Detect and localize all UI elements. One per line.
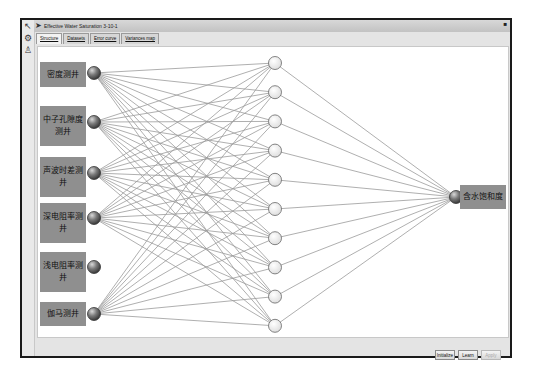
connection-line (275, 180, 456, 197)
connection-line (94, 73, 275, 121)
network-canvas: 密度测井 中子孔隙度测井 声波时差测井 深电阻率测井 浅电阻率测井 伽马测井 含… (37, 46, 509, 338)
connection-line (275, 151, 456, 197)
connection-line (275, 197, 456, 297)
connection-line (94, 297, 275, 314)
hidden-node[interactable] (269, 232, 282, 245)
connection-line (94, 218, 275, 267)
tab-structure[interactable]: Structure (36, 33, 62, 44)
tab-error-curve[interactable]: Error curve (90, 33, 120, 44)
apply-button[interactable]: Apply (481, 350, 501, 360)
input-node[interactable] (88, 167, 101, 180)
input-node[interactable] (88, 261, 101, 274)
connection-line (275, 63, 456, 197)
hidden-node[interactable] (269, 57, 282, 70)
learn-button[interactable]: Learn (458, 350, 478, 360)
tab-datasets[interactable]: Datasets (63, 33, 89, 44)
app-icon: ➤ (35, 21, 42, 31)
pointer-icon[interactable]: ↖ (23, 21, 33, 31)
tab-bar: Structure Datasets Error curve Variances… (36, 33, 159, 44)
input-label-deep-resistivity: 深电阻率测井 (40, 203, 86, 243)
connection-line (275, 121, 456, 197)
gear-icon[interactable]: ⚙ (23, 33, 33, 43)
connection-line (94, 73, 275, 267)
input-node[interactable] (88, 308, 101, 321)
connection-line (94, 267, 275, 314)
hidden-node[interactable] (269, 173, 282, 186)
connection-line (94, 122, 275, 326)
hidden-node[interactable] (269, 144, 282, 157)
output-label-water-saturation: 含水饱和度 (460, 185, 506, 209)
input-node[interactable] (88, 212, 101, 225)
title-bar: ➤ Effective Water Saturation 3-10-1 ■ (34, 20, 510, 32)
connection-line (94, 73, 275, 297)
input-label-shallow-resistivity: 浅电阻率测井 (40, 252, 86, 292)
input-node[interactable] (88, 67, 101, 80)
input-label-neutron-porosity: 中子孔隙度测井 (40, 106, 86, 146)
connection-line (94, 218, 275, 326)
hidden-node[interactable] (269, 290, 282, 303)
person-icon[interactable]: ♙ (23, 45, 33, 55)
connection-line (94, 122, 275, 180)
tab-variances-map[interactable]: Variances map (121, 33, 159, 44)
network-diagram (38, 47, 510, 339)
window-title: Effective Water Saturation 3-10-1 (44, 21, 118, 31)
hidden-node[interactable] (269, 86, 282, 99)
input-label-acoustic: 声波时差测井 (40, 157, 86, 197)
connection-line (275, 92, 456, 197)
network-window: ↖ ⚙ ♙ ➤ Effective Water Saturation 3-10-… (20, 18, 512, 358)
connection-line (94, 151, 275, 314)
side-toolbar: ↖ ⚙ ♙ (22, 20, 35, 356)
connection-line (94, 173, 275, 267)
connection-line (94, 63, 275, 173)
initialize-button[interactable]: Initialize (435, 350, 455, 360)
hidden-node[interactable] (269, 261, 282, 274)
hidden-node[interactable] (269, 203, 282, 216)
connection-line (94, 314, 275, 326)
connection-line (94, 122, 275, 297)
input-label-gamma: 伽马测井 (40, 302, 86, 326)
input-label-density: 密度测井 (40, 62, 86, 87)
connection-line (275, 197, 456, 326)
connection-line (94, 209, 275, 314)
close-icon[interactable]: ■ (503, 21, 507, 27)
input-node[interactable] (88, 116, 101, 129)
connection-line (94, 121, 275, 122)
hidden-node[interactable] (269, 319, 282, 332)
hidden-node[interactable] (269, 115, 282, 128)
